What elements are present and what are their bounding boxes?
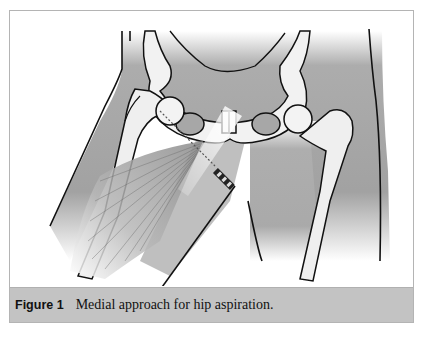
figure-caption: Figure 1 Medial approach for hip aspirat… bbox=[10, 287, 413, 322]
figure-label: Figure 1 bbox=[15, 298, 64, 312]
figure-frame: Figure 1 Medial approach for hip aspirat… bbox=[9, 10, 414, 323]
hip-aspiration-illustration bbox=[10, 11, 413, 286]
caption-text: Medial approach for hip aspiration. bbox=[76, 297, 274, 313]
